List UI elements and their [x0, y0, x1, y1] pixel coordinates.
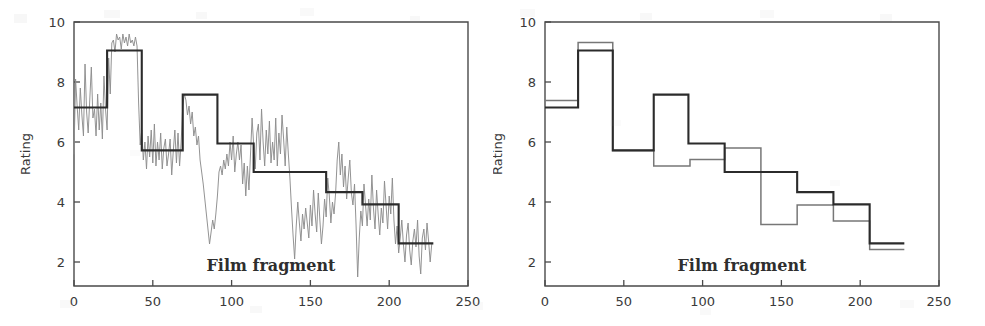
left-x-tick-labels: 050100150200250 — [70, 294, 481, 309]
x-tick-label: 150 — [769, 294, 794, 309]
y-tick-label: 10 — [519, 15, 536, 30]
x-tick-label: 50 — [145, 294, 162, 309]
left-x-axis-title: Film fragment — [206, 256, 336, 275]
left-segmentation-step-line — [74, 51, 433, 244]
x-tick-label: 250 — [927, 294, 952, 309]
right-axis-spines — [545, 22, 939, 286]
left-y-axis-title: Rating — [18, 133, 33, 175]
right-tickmarks — [545, 22, 939, 286]
y-tick-label: 6 — [57, 135, 65, 150]
x-tick-label: 0 — [541, 294, 549, 309]
right-x-axis-title: Film fragment — [677, 256, 807, 275]
left-chart-svg: 050100150200250 246810 Film fragment Rat… — [0, 0, 492, 326]
x-tick-label: 250 — [456, 294, 481, 309]
right-y-tick-labels: 246810 — [519, 15, 536, 270]
y-tick-label: 4 — [528, 195, 536, 210]
chart-panel-right: 050100150200250 246810 Film fragment Rat… — [493, 0, 985, 326]
y-tick-label: 8 — [57, 75, 65, 90]
y-tick-label: 4 — [57, 195, 65, 210]
y-tick-label: 8 — [528, 75, 536, 90]
x-tick-label: 150 — [298, 294, 323, 309]
x-tick-label: 200 — [377, 294, 402, 309]
y-tick-label: 2 — [57, 255, 65, 270]
y-tick-label: 2 — [528, 255, 536, 270]
right-segmentation-a-step-line — [545, 51, 904, 244]
right-y-axis-title: Rating — [493, 133, 505, 175]
y-tick-label: 6 — [528, 135, 536, 150]
x-tick-label: 50 — [616, 294, 633, 309]
y-tick-label: 10 — [48, 15, 65, 30]
right-chart-svg: 050100150200250 246810 Film fragment Rat… — [493, 0, 985, 326]
x-tick-label: 100 — [690, 294, 715, 309]
chart-panel-left: 050100150200250 246810 Film fragment Rat… — [0, 0, 492, 326]
x-tick-label: 200 — [848, 294, 873, 309]
x-tick-label: 0 — [70, 294, 78, 309]
figure-two-panel-rating-segmentation: 050100150200250 246810 Film fragment Rat… — [0, 0, 985, 326]
x-tick-label: 100 — [219, 294, 244, 309]
left-y-tick-labels: 246810 — [48, 15, 65, 270]
right-x-tick-labels: 050100150200250 — [541, 294, 952, 309]
